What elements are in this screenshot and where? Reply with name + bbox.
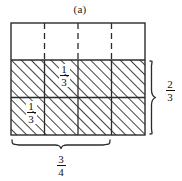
- fraction-numerator: 1: [59, 64, 70, 74]
- fraction-numerator: 2: [160, 79, 180, 89]
- fraction-denominator: 3: [59, 77, 70, 87]
- fraction-numerator: 1: [26, 101, 37, 111]
- right-brace-icon: [150, 61, 156, 134]
- right-brace-fraction-label: 2 3: [160, 79, 180, 102]
- fraction-numerator: 3: [51, 154, 71, 164]
- bottom-row-fraction-label: 1 3: [21, 101, 41, 124]
- middle-row-fraction-label: 1 3: [54, 64, 74, 87]
- fraction-denominator: 4: [51, 167, 71, 177]
- fraction-denominator: 3: [26, 114, 37, 124]
- fraction-grid-diagram: [0, 0, 182, 181]
- bottom-brace-fraction-label: 3 4: [51, 154, 71, 177]
- bottom-brace-icon: [12, 140, 110, 149]
- fraction-denominator: 3: [160, 92, 180, 102]
- fraction-area-model-figure: (a): [0, 0, 182, 181]
